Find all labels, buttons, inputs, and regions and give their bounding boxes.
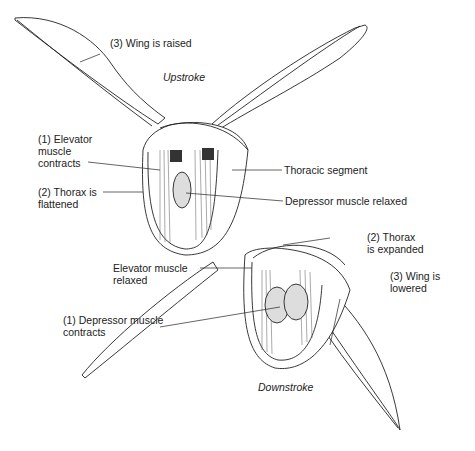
flight-muscle-illustration	[0, 0, 475, 451]
upstroke-left-wing	[15, 18, 165, 124]
caption-upstroke: Upstroke	[163, 71, 205, 83]
label-thorax-expanded: (2) Thorax is expanded	[367, 231, 424, 255]
label-thoracic-segment: Thoracic segment	[284, 164, 367, 176]
label-elevator-relaxed: Elevator muscle relaxed	[113, 262, 188, 286]
label-depressor-contracts: (1) Depressor muscle contracts	[63, 314, 163, 338]
label-wing-lowered: (3) Wing is lowered	[390, 270, 440, 294]
label-elevator-contracts: (1) Elevator muscle contracts	[38, 133, 92, 169]
label-depressor-relaxed: Depressor muscle relaxed	[285, 195, 407, 207]
label-wing-raised: (3) Wing is raised	[110, 37, 192, 49]
upstroke-right-wing	[212, 25, 367, 130]
upstroke-depressor-muscle	[173, 172, 191, 208]
label-thorax-flattened: (2) Thorax is flattened	[38, 186, 97, 210]
downstroke-depressor-muscle-b	[284, 284, 308, 320]
caption-downstroke: Downstroke	[258, 381, 313, 393]
